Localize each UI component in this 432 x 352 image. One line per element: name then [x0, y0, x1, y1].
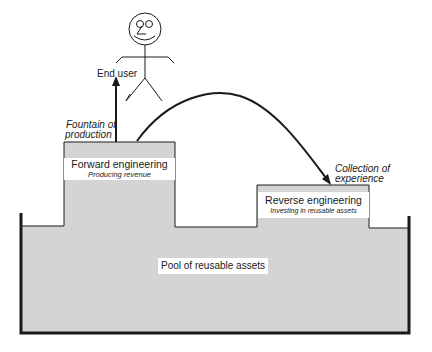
fountain-label-line2: production	[65, 129, 112, 140]
stick-figure-icon	[116, 13, 174, 101]
forward-engineering-title: Forward engineering	[64, 158, 175, 170]
forward-engineering-box: Forward engineering Producing revenue	[64, 158, 175, 180]
forward-engineering-subtitle: Producing revenue	[64, 170, 175, 179]
diagram-canvas: End user Fountain of production Forward …	[0, 0, 432, 352]
pool-label-box: Pool of reusable assets	[158, 258, 268, 274]
reverse-engineering-title: Reverse engineering	[258, 192, 369, 206]
pool-label: Pool of reusable assets	[158, 258, 268, 274]
collection-label-line2: experience	[335, 173, 384, 184]
reverse-engineering-box: Reverse engineering Investing in reusabl…	[258, 192, 369, 218]
end-user-label: End user	[97, 68, 137, 79]
reverse-engineering-subtitle: Investing in reusable assets	[258, 206, 369, 216]
